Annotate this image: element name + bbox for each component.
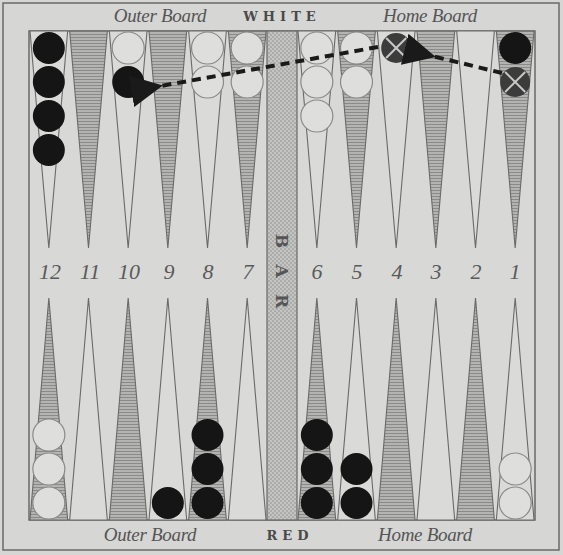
black-checker[interactable] [499,32,531,64]
black-checker[interactable] [341,487,373,519]
bar-letter-b: B [267,229,297,253]
ghost-checker[interactable] [381,33,411,63]
top-right-label: Home Board [383,5,477,27]
point-number-12: 12 [30,259,70,285]
point-number-11: 11 [70,259,110,285]
black-checker[interactable] [301,453,333,485]
top-left-label: Outer Board [114,5,207,27]
black-checker[interactable] [33,100,65,132]
white-checker[interactable] [301,66,333,98]
white-checker[interactable] [33,453,65,485]
point-number-9: 9 [149,259,189,285]
white-checker[interactable] [341,32,373,64]
white-checker[interactable] [192,66,224,98]
point-number-8: 8 [188,259,228,285]
black-checker[interactable] [301,419,333,451]
black-checker[interactable] [341,453,373,485]
black-checker[interactable] [192,487,224,519]
point-number-5: 5 [337,259,377,285]
point-number-7: 7 [228,259,268,285]
black-checker[interactable] [152,487,184,519]
black-checker[interactable] [33,32,65,64]
point-number-10: 10 [109,259,149,285]
ghost-checker[interactable] [500,67,530,97]
white-checker[interactable] [499,453,531,485]
white-checker[interactable] [341,66,373,98]
bar-label: B A R [270,226,294,316]
point-number-1: 1 [495,259,535,285]
black-checker[interactable] [33,66,65,98]
top-center-label: WHITE [243,9,321,24]
bar-letter-r: R [267,289,297,313]
white-checker[interactable] [192,32,224,64]
white-checker[interactable] [33,487,65,519]
black-checker[interactable] [112,66,144,98]
point-number-4: 4 [377,259,417,285]
black-checker[interactable] [192,453,224,485]
white-checker[interactable] [231,32,263,64]
black-checker[interactable] [192,419,224,451]
white-checker[interactable] [112,32,144,64]
bar-letter-a: A [267,259,297,283]
bottom-center-label: RED [267,528,314,543]
point-number-6: 6 [297,259,337,285]
white-checker[interactable] [33,419,65,451]
black-checker[interactable] [301,487,333,519]
white-checker[interactable] [499,487,531,519]
bottom-left-label: Outer Board [104,524,197,546]
point-number-2: 2 [456,259,496,285]
point-number-3: 3 [416,259,456,285]
black-checker[interactable] [33,134,65,166]
bottom-right-label: Home Board [378,524,472,546]
white-checker[interactable] [301,100,333,132]
